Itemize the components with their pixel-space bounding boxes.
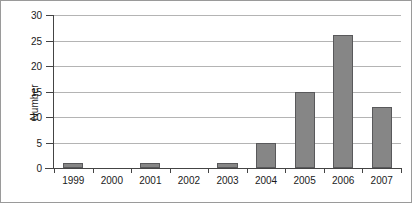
bar — [217, 163, 237, 168]
y-axis-tick — [46, 92, 53, 93]
y-axis-tick-labels: 051015202530 — [1, 1, 45, 203]
x-axis-tick-label: 2000 — [101, 175, 123, 186]
bar — [295, 92, 315, 169]
y-axis-tick — [46, 41, 53, 42]
bar-chart-figure: Number 051015202530 19992000200120022003… — [0, 0, 412, 203]
y-axis-tick — [46, 66, 53, 67]
x-axis-tick — [93, 168, 94, 173]
x-axis-tick — [247, 168, 248, 173]
y-axis-tick-label: 25 — [31, 35, 42, 46]
bar — [256, 143, 276, 169]
y-axis-tick-label: 10 — [31, 112, 42, 123]
bar — [333, 35, 353, 168]
x-axis-tick-label: 2005 — [293, 175, 315, 186]
x-axis-tick-label: 2004 — [255, 175, 277, 186]
bar — [140, 163, 160, 168]
y-axis-tick-label: 15 — [31, 86, 42, 97]
bar-series — [54, 15, 401, 168]
x-axis-tick — [54, 168, 55, 173]
x-axis-tick — [131, 168, 132, 173]
y-axis-tick — [46, 143, 53, 144]
x-axis-tick-label: 2007 — [371, 175, 393, 186]
y-axis-tick-label: 0 — [36, 163, 42, 174]
y-axis-tick — [46, 117, 53, 118]
x-axis-tick-label: 2003 — [216, 175, 238, 186]
x-axis-tick — [170, 168, 171, 173]
x-axis-tick-label: 2006 — [332, 175, 354, 186]
x-axis-tick — [362, 168, 363, 173]
x-axis-line — [45, 168, 401, 169]
y-axis-tick-label: 20 — [31, 61, 42, 72]
bar — [63, 163, 83, 168]
x-axis-tick — [401, 168, 402, 173]
bar — [372, 107, 392, 168]
x-axis-tick — [324, 168, 325, 173]
y-axis-tick-label: 5 — [36, 137, 42, 148]
x-axis-tick — [208, 168, 209, 173]
y-axis-tick — [46, 168, 53, 169]
x-axis-tick-label: 1999 — [62, 175, 84, 186]
y-axis-tick — [46, 15, 53, 16]
x-axis-tick-label: 2002 — [178, 175, 200, 186]
x-axis-tick-label: 2001 — [139, 175, 161, 186]
y-axis-tick-label: 30 — [31, 10, 42, 21]
x-axis-tick — [285, 168, 286, 173]
